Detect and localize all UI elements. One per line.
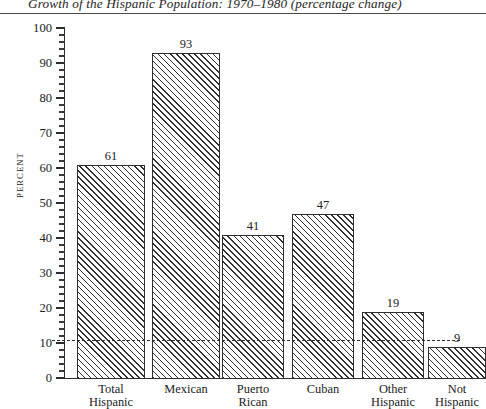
- y-tick-minor: [59, 83, 65, 84]
- y-tick-minor: [59, 41, 65, 42]
- y-tick-label-wrap: 50: [12, 203, 52, 204]
- category-label-line: Hispanic: [63, 396, 159, 409]
- y-tick-minor: [59, 349, 65, 350]
- y-tick-label: 90: [16, 57, 52, 70]
- y-tick-label-wrap: 90: [12, 63, 52, 64]
- bar-value-label: 9: [418, 332, 486, 344]
- y-tick-label-wrap: 0: [12, 378, 52, 379]
- y-tick-minor: [59, 55, 65, 56]
- y-tick-major: [56, 27, 65, 28]
- y-tick-minor: [59, 293, 65, 294]
- y-tick-label: 80: [16, 92, 52, 105]
- bar: [428, 347, 486, 380]
- y-tick-minor: [59, 174, 65, 175]
- y-tick-minor: [59, 216, 65, 217]
- y-tick-minor: [59, 265, 65, 266]
- y-tick-minor: [59, 146, 65, 147]
- category-label-line: Rican: [208, 396, 298, 409]
- bar-value-label: 93: [142, 38, 230, 50]
- y-tick-label-wrap: 60: [12, 168, 52, 169]
- y-tick-minor: [59, 258, 65, 259]
- y-tick-minor: [59, 321, 65, 322]
- y-tick-major: [56, 272, 65, 273]
- y-tick-label-wrap: 70: [12, 133, 52, 134]
- bar-value-label: 19: [352, 297, 434, 309]
- y-tick-major: [56, 342, 65, 343]
- y-tick-label: 70: [16, 127, 52, 140]
- y-tick-label-wrap: 80: [12, 98, 52, 99]
- y-tick-label: 20: [16, 302, 52, 315]
- y-tick-minor: [59, 314, 65, 315]
- y-tick-minor: [59, 300, 65, 301]
- bar: [77, 165, 145, 380]
- y-tick-minor: [59, 335, 65, 336]
- y-tick-minor: [59, 363, 65, 364]
- y-tick-minor: [59, 139, 65, 140]
- y-tick-label-wrap: 30: [12, 273, 52, 274]
- plot-area: PERCENT 0102030405060708090100 619341471…: [0, 0, 486, 409]
- category-label: NotHispanic: [414, 383, 486, 409]
- y-tick-minor: [59, 286, 65, 287]
- bar: [292, 214, 354, 380]
- y-tick-major: [56, 307, 65, 308]
- y-tick-minor: [59, 125, 65, 126]
- y-tick-minor: [59, 370, 65, 371]
- y-tick-label: 30: [16, 267, 52, 280]
- y-tick-minor: [59, 118, 65, 119]
- y-tick-major: [56, 167, 65, 168]
- reference-line: [52, 340, 460, 341]
- figure-container: Growth of the Hispanic Population: 1970–…: [0, 0, 486, 409]
- y-tick-minor: [59, 111, 65, 112]
- y-tick-minor: [59, 69, 65, 70]
- y-tick-label: 10: [16, 337, 52, 350]
- y-tick-label: 50: [16, 197, 52, 210]
- y-tick-major: [56, 132, 65, 133]
- y-tick-label-wrap: 100: [12, 28, 52, 29]
- bar: [152, 53, 220, 380]
- y-tick-label: 0: [16, 372, 52, 385]
- y-tick-label: 100: [16, 22, 52, 35]
- y-tick-minor: [59, 209, 65, 210]
- y-tick-minor: [59, 188, 65, 189]
- y-tick-minor: [59, 244, 65, 245]
- y-tick-minor: [59, 328, 65, 329]
- y-tick-minor: [59, 76, 65, 77]
- y-tick-major: [56, 97, 65, 98]
- y-tick-minor: [59, 90, 65, 91]
- y-tick-label: 60: [16, 162, 52, 175]
- y-tick-minor: [59, 251, 65, 252]
- y-tick-major: [56, 202, 65, 203]
- bar-value-label: 41: [212, 220, 294, 232]
- y-tick-minor: [59, 195, 65, 196]
- y-tick-minor: [59, 356, 65, 357]
- y-tick-minor: [59, 230, 65, 231]
- bar-value-label: 61: [67, 150, 155, 162]
- y-tick-major: [56, 62, 65, 63]
- y-tick-minor: [59, 160, 65, 161]
- y-tick-minor: [59, 48, 65, 49]
- y-tick-minor: [59, 153, 65, 154]
- category-label-line: Not: [414, 383, 486, 396]
- y-tick-label-wrap: 10: [12, 343, 52, 344]
- y-tick-label-wrap: 40: [12, 238, 52, 239]
- y-tick-minor: [59, 279, 65, 280]
- bar-value-label: 47: [282, 199, 364, 211]
- bar: [222, 235, 284, 380]
- y-tick-minor: [59, 223, 65, 224]
- y-tick-major: [56, 377, 65, 378]
- category-label-line: Hispanic: [414, 396, 486, 409]
- y-tick-minor: [59, 34, 65, 35]
- y-tick-label-wrap: 20: [12, 308, 52, 309]
- y-tick-minor: [59, 181, 65, 182]
- y-tick-major: [56, 237, 65, 238]
- bar: [362, 312, 424, 380]
- y-tick-minor: [59, 104, 65, 105]
- y-tick-label: 40: [16, 232, 52, 245]
